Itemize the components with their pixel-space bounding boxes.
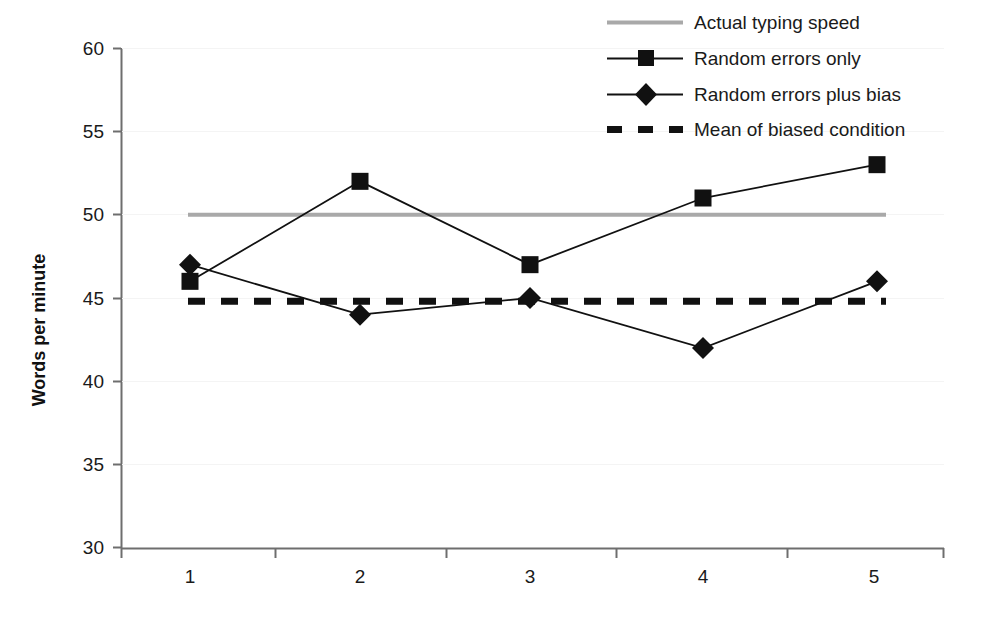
y-tick-label: 45: [83, 288, 104, 309]
legend-label: Mean of biased condition: [694, 119, 905, 140]
legend-label: Random errors plus bias: [694, 84, 901, 105]
y-tick-label: 60: [83, 38, 104, 59]
legend-label: Random errors only: [694, 48, 861, 69]
data-point-marker: [695, 190, 712, 207]
y-tick-label: 40: [83, 371, 104, 392]
data-point-marker: [522, 256, 539, 273]
line-chart: 60 55 50 45 40 35 30 Words per minute 1 …: [0, 0, 1003, 618]
y-axis-title: Words per minute: [29, 254, 49, 407]
x-tick-label: 2: [355, 566, 366, 587]
y-tick-label: 30: [83, 537, 104, 558]
data-point-marker: [869, 156, 886, 173]
x-tick-label: 1: [185, 566, 196, 587]
x-tick-label: 4: [698, 566, 709, 587]
legend-item-random-errors-only: Random errors only: [607, 48, 861, 69]
x-tick-label: 5: [869, 566, 880, 587]
data-point-marker: [352, 173, 369, 190]
legend-label: Actual typing speed: [694, 12, 860, 33]
legend-swatch-square-marker-icon: [638, 50, 654, 66]
chart-container: 60 55 50 45 40 35 30 Words per minute 1 …: [0, 0, 1003, 618]
y-tick-label: 50: [83, 204, 104, 225]
x-tick-label: 3: [525, 566, 536, 587]
y-tick-label: 55: [83, 121, 104, 142]
y-tick-label: 35: [83, 454, 104, 475]
